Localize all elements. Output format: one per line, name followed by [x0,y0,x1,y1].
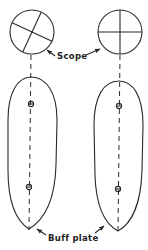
left-alignment-line [29,55,31,230]
buff-plate-arrow-left [37,229,46,235]
scope-arrow-right [86,49,100,55]
left-scope-crosshair [3,3,61,61]
buff-plate-label: Buff plate [48,233,98,243]
left-buff-plate [8,77,57,229]
scope-buff-plate-diagram: Scope Buff plate [0,0,148,250]
right-scope [98,10,142,54]
buff-plate-arrow-right [95,226,104,233]
left-scope [3,3,61,61]
scope-arrow-left [47,50,55,56]
scope-label: Scope [57,51,87,61]
